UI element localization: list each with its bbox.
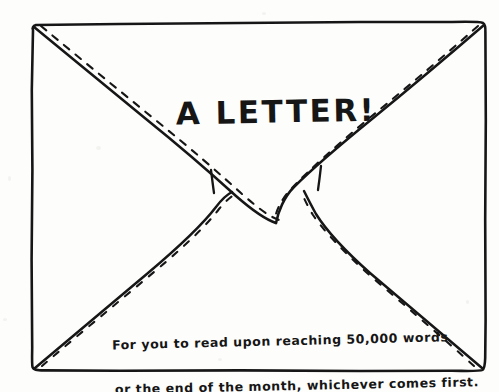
envelope-illustration-page: A LETTER! For you to read upon reaching … (0, 0, 499, 392)
left-vertex-crease (211, 170, 214, 193)
right-vertex-crease (318, 166, 321, 190)
envelope-title-text: A LETTER! (176, 92, 377, 132)
envelope-caption: For you to read upon reaching 50,000 wor… (112, 310, 479, 392)
envelope-title: A LETTER! (0, 61, 499, 164)
caption-line-2: or the end of the month, whichever comes… (115, 376, 479, 392)
caption-line-1: For you to read upon reaching 50,000 wor… (112, 331, 479, 352)
